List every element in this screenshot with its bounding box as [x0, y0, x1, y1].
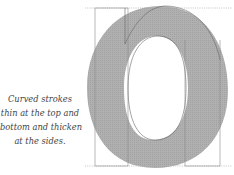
- counter-outline: [128, 36, 186, 140]
- letter-o-shape: [87, 6, 228, 168]
- letter-o-diagram: [0, 0, 234, 175]
